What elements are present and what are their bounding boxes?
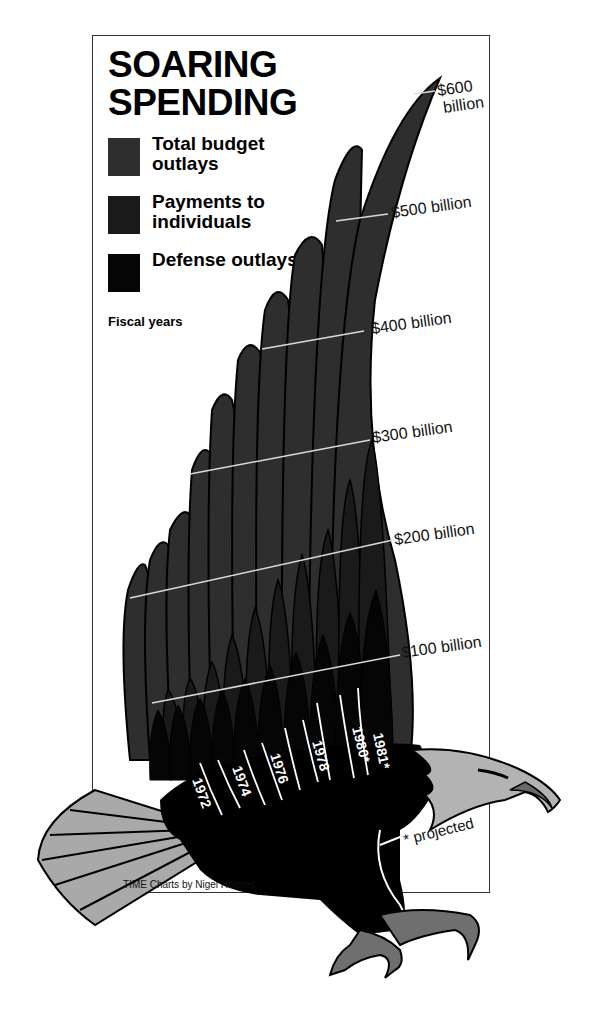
chart-credit: TIME Charts by Nigel Holmes: [123, 879, 255, 890]
tick-500: $500 billion: [390, 193, 473, 221]
tick-400: $400 billion: [370, 309, 453, 337]
eagle-head-icon: [412, 749, 560, 830]
tick-300: $300 billion: [371, 418, 454, 446]
eagle-chart: $100 billion $200 billion $300 billion $…: [0, 0, 595, 1022]
tick-100: $100 billion: [400, 633, 483, 661]
tick-200: $200 billion: [393, 520, 476, 548]
